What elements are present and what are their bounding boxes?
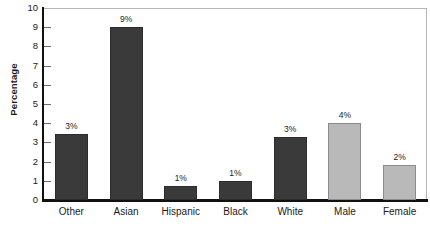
y-axis-tick <box>44 27 51 28</box>
y-axis-tick-label: 3 <box>4 137 38 147</box>
y-axis-tick-label: 9 <box>4 22 38 32</box>
x-label-other: Other <box>44 205 99 219</box>
y-axis-tick-label: 2 <box>4 157 38 167</box>
bar-female: 2% <box>383 165 416 200</box>
y-axis-tick-label: 6 <box>4 80 38 90</box>
bar-value-label: 9% <box>120 15 132 24</box>
bar-white: 3% <box>274 137 307 200</box>
y-axis-tick-label: 8 <box>4 41 38 51</box>
x-label-hispanic: Hispanic <box>153 205 208 219</box>
y-axis-tick <box>44 104 51 105</box>
bar-value-label: 1% <box>229 169 241 178</box>
y-axis-tick <box>44 66 51 67</box>
x-label-asian: Asian <box>99 205 154 219</box>
y-axis-tick-label: 0 <box>4 195 38 205</box>
y-axis-tick <box>44 142 51 143</box>
x-label-white: White <box>263 205 318 219</box>
y-axis-tick-label: 1 <box>4 176 38 186</box>
bar-chart: Percentage 012345678910 3%9%1%1%3%4%2% O… <box>0 0 430 237</box>
y-axis-tick <box>44 162 51 163</box>
x-label-black: Black <box>208 205 263 219</box>
bar-series: 3%9%1%1%3%4%2% <box>44 8 427 200</box>
bar-black: 1% <box>219 181 252 200</box>
bar-value-label: 3% <box>284 125 296 134</box>
bar-asian: 9% <box>110 27 143 200</box>
x-label-female: Female <box>372 205 427 219</box>
y-axis-tick <box>44 85 51 86</box>
y-axis-tick-label: 7 <box>4 61 38 71</box>
bar-value-label: 2% <box>393 153 405 162</box>
y-axis-tick <box>44 46 51 47</box>
bar-value-label: 3% <box>65 122 77 131</box>
y-axis-tick-label: 10 <box>4 3 38 13</box>
x-label-male: Male <box>318 205 373 219</box>
y-axis-tick <box>44 181 51 182</box>
clipped-caption <box>4 230 174 237</box>
y-axis-tick-label: 4 <box>4 118 38 128</box>
bar-value-label: 1% <box>175 174 187 183</box>
x-axis-category-labels: OtherAsianHispanicBlackWhiteMaleFemale <box>44 205 427 221</box>
y-axis-tick-label: 5 <box>4 99 38 109</box>
y-axis-tick-labels: 012345678910 <box>0 0 38 237</box>
bar-value-label: 4% <box>339 111 351 120</box>
bar-hispanic: 1% <box>164 186 197 200</box>
y-axis-tick <box>44 123 51 124</box>
bar-other: 3% <box>55 134 88 200</box>
bar-male: 4% <box>328 123 361 200</box>
